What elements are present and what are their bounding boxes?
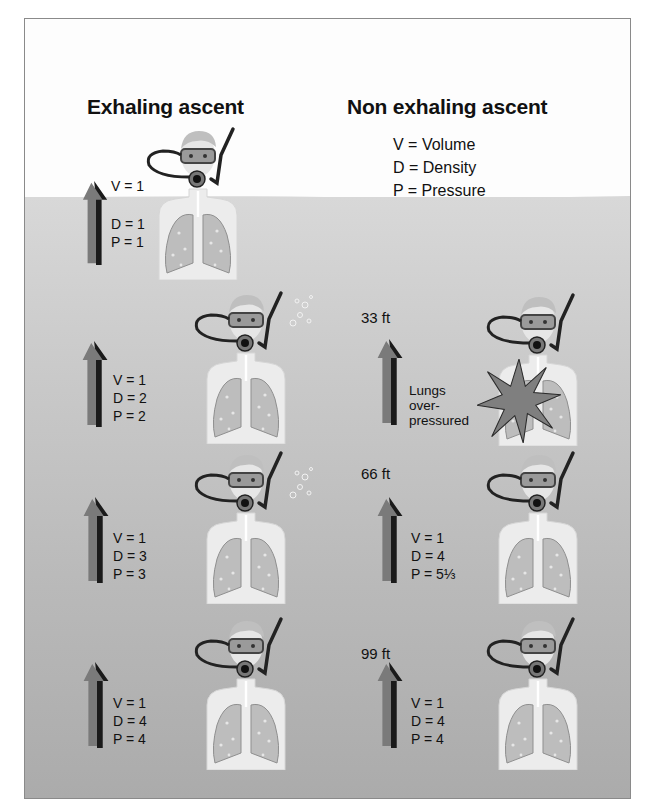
- depth-label-66ft: 66 ft: [361, 465, 390, 482]
- non-exhaling-66ft-pressure: P = 5⅓: [411, 565, 456, 583]
- ascent-arrow-icon: [377, 662, 405, 748]
- exhaling-4-pressure: P = 4: [113, 730, 147, 748]
- non-exhaling-99ft-volume: V = 1: [411, 694, 445, 712]
- exhaling-3-volume: V = 1: [113, 529, 147, 547]
- heading-exhaling-ascent: Exhaling ascent: [87, 95, 244, 119]
- depth-label-33ft: 33 ft: [361, 309, 390, 326]
- non-exhaling-99ft-pressure: P = 4: [411, 730, 445, 748]
- non-exhaling-99ft-density: D = 4: [411, 712, 445, 730]
- diver-icon: [477, 449, 597, 604]
- exhaling-2-density: D = 2: [113, 389, 147, 407]
- exhaling-3-pressure: P = 3: [113, 565, 147, 583]
- bubbles-icon: [285, 293, 315, 333]
- diagram-frame: Exhaling ascent Non exhaling ascent V = …: [24, 18, 631, 799]
- note-line: over-: [409, 398, 469, 413]
- ascent-arrow-icon: [83, 497, 111, 583]
- note-line: pressured: [409, 413, 469, 428]
- legend: V = Volume D = Density P = Pressure: [393, 133, 486, 202]
- lungs-overpressured-note: Lungs over- pressured: [409, 383, 469, 428]
- non-exhaling-66ft-volume: V = 1: [411, 529, 456, 547]
- diver-icon: [185, 615, 305, 770]
- exhaling-4-values: V = 1 D = 4 P = 4: [113, 694, 147, 748]
- legend-density: D = Density: [393, 156, 486, 179]
- note-line: Lungs: [409, 383, 469, 398]
- diver-icon: [477, 615, 597, 770]
- exhaling-4-density: D = 4: [113, 712, 147, 730]
- lung-burst-icon: [477, 359, 561, 443]
- exhaling-2-volume: V = 1: [113, 371, 147, 389]
- exhaling-2-values: V = 1 D = 2 P = 2: [113, 371, 147, 425]
- non-exhaling-99ft-values: V = 1 D = 4 P = 4: [411, 694, 445, 748]
- legend-pressure: P = Pressure: [393, 179, 486, 202]
- heading-non-exhaling-ascent: Non exhaling ascent: [347, 95, 547, 119]
- bubbles-icon: [285, 465, 315, 505]
- non-exhaling-66ft-values: V = 1 D = 4 P = 5⅓: [411, 529, 456, 583]
- ascent-arrow-icon: [82, 181, 110, 265]
- exhaling-4-volume: V = 1: [113, 694, 147, 712]
- exhaling-2-pressure: P = 2: [113, 407, 147, 425]
- exhaling-3-values: V = 1 D = 3 P = 3: [113, 529, 147, 583]
- exhaling-3-density: D = 3: [113, 547, 147, 565]
- ascent-arrow-icon: [377, 497, 405, 583]
- diver-icon: [137, 125, 257, 280]
- non-exhaling-66ft-density: D = 4: [411, 547, 456, 565]
- depth-label-99ft: 99 ft: [361, 645, 390, 662]
- ascent-arrow-icon: [82, 341, 110, 427]
- ascent-arrow-icon: [377, 339, 405, 425]
- ascent-arrow-icon: [83, 662, 111, 748]
- legend-volume: V = Volume: [393, 133, 486, 156]
